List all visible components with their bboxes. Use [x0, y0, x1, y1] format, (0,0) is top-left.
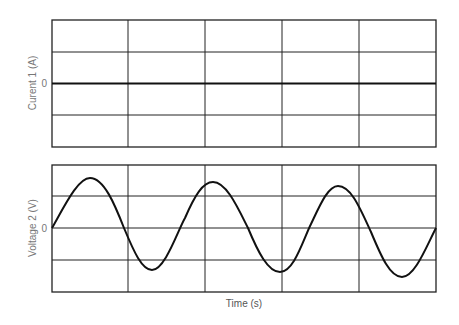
- current-panel: 0 Curent 1 (A): [27, 20, 436, 147]
- voltage-zero-tick: 0: [41, 223, 47, 234]
- voltage-panel: 0 Voltage 2 (V) Time (s): [27, 165, 436, 309]
- current-y-label: Curent 1 (A): [27, 56, 38, 110]
- current-zero-tick: 0: [41, 78, 47, 89]
- voltage-y-label: Voltage 2 (V): [27, 199, 38, 257]
- oscilloscope-chart: 0 Curent 1 (A) 0 Voltage 2 (V) Time (s): [0, 0, 459, 325]
- time-x-label: Time (s): [226, 298, 262, 309]
